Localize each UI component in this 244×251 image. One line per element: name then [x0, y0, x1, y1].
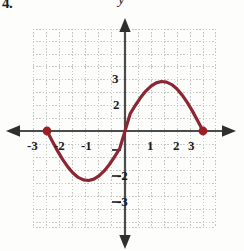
- exercise-number: 4.: [2, 0, 12, 12]
- x-tick-label-neg1: -1: [81, 139, 92, 152]
- y-tick-label-1: 2: [113, 98, 120, 111]
- y-tick-label-2: 3: [112, 72, 119, 85]
- y-axis-top-arrow: [119, 18, 130, 32]
- x-tick-label-neg2: -2: [54, 139, 65, 152]
- y-tick-label-neg2: -2: [117, 169, 128, 182]
- x-tick-label-1: 1: [147, 139, 154, 152]
- coordinate-plane: [0, 0, 244, 251]
- x-axis-left-arrow: [6, 125, 20, 137]
- x-axis-right-arrow: [222, 125, 236, 137]
- y-axis-label: y: [118, 0, 125, 8]
- x-tick-label-2: 2: [173, 139, 180, 152]
- y-axis-bottom-arrow: [119, 235, 130, 249]
- graph-figure: 4. y: [0, 0, 244, 251]
- root-point-negative-three: [43, 127, 52, 136]
- y-tick-label-neg3: -3: [117, 195, 128, 208]
- x-tick-label-3: 3: [188, 139, 195, 152]
- x-tick-label-neg3: -3: [27, 139, 38, 152]
- root-point-positive-three: [199, 127, 208, 136]
